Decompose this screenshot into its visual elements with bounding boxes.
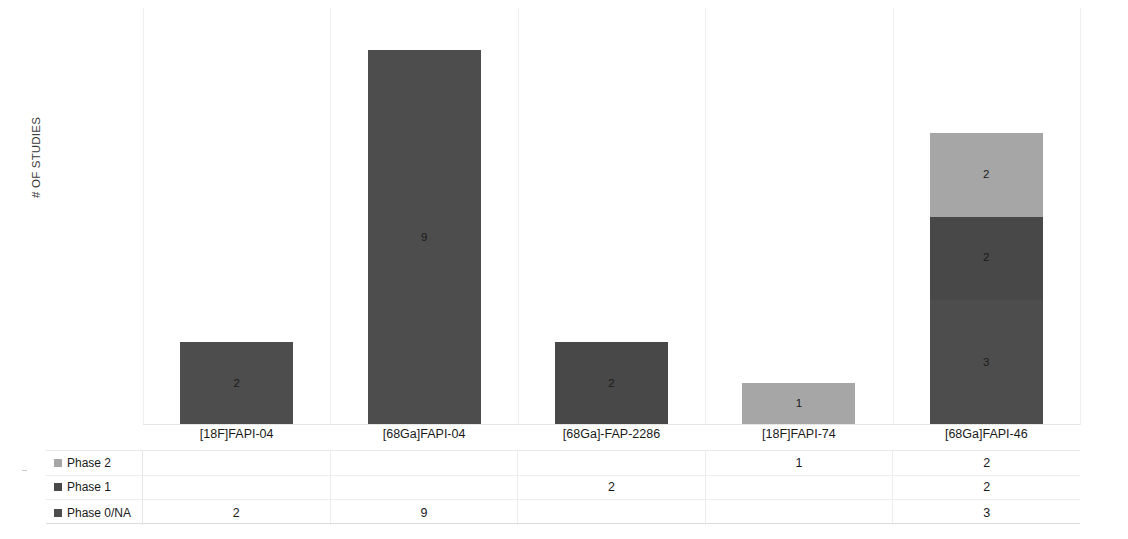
legend-label: Phase 0/NA — [67, 506, 131, 520]
legend-entry[interactable]: Phase 0/NA — [46, 500, 143, 525]
gridline-vertical — [893, 8, 894, 425]
table-row: Phase 212 — [46, 451, 1080, 476]
scan-artifact — [22, 470, 27, 471]
bar-segment[interactable]: 2 — [930, 217, 1043, 300]
table-cell — [518, 500, 706, 525]
table-cell — [143, 476, 331, 500]
gridline-vertical — [330, 8, 331, 425]
table-cell — [331, 476, 519, 500]
legend-swatch-icon — [54, 483, 62, 491]
table-cell: 2 — [893, 476, 1080, 500]
bar-segment[interactable]: 1 — [742, 383, 855, 425]
table-cell: 3 — [893, 500, 1080, 525]
table-cell — [706, 500, 894, 525]
bar-value-label: 2 — [608, 378, 614, 390]
bar-column[interactable]: 1 — [742, 383, 855, 425]
category-label: [18F]FAPI-74 — [705, 427, 892, 441]
gridline-vertical — [705, 8, 706, 425]
bar-column[interactable]: 9 — [368, 50, 481, 425]
legend-entry[interactable]: Phase 1 — [46, 476, 143, 500]
bar-value-label: 9 — [421, 232, 427, 244]
bar-column[interactable]: 322 — [930, 133, 1043, 425]
bar-value-label: 2 — [983, 252, 989, 264]
bar-value-label: 2 — [233, 378, 239, 390]
legend-swatch-icon — [54, 509, 62, 517]
bar-column[interactable]: 2 — [180, 342, 293, 425]
data-table: Phase 212Phase 122Phase 0/NA293 — [46, 450, 1080, 524]
gridline-vertical — [1080, 8, 1081, 425]
legend-entry[interactable]: Phase 2 — [46, 451, 143, 475]
legend-label: Phase 2 — [67, 456, 111, 470]
table-cell: 2 — [143, 500, 331, 525]
category-label: [68Ga]FAPI-04 — [330, 427, 517, 441]
bar-segment[interactable]: 9 — [368, 50, 481, 425]
gridline-vertical — [518, 8, 519, 425]
bar-segment[interactable]: 2 — [180, 342, 293, 425]
table-row: Phase 122 — [46, 476, 1080, 501]
legend-swatch-icon — [54, 459, 62, 467]
bar-value-label: 2 — [983, 169, 989, 181]
bar-segment[interactable]: 3 — [930, 300, 1043, 425]
plot-area: 2921322 — [143, 8, 1080, 425]
stacked-bar-chart: # OF STUDIES 2921322 [18F]FAPI-04[68Ga]F… — [0, 0, 1128, 539]
bar-value-label: 3 — [983, 357, 989, 369]
bar-segment[interactable]: 2 — [555, 342, 668, 425]
table-cell — [331, 451, 519, 475]
bar-segment[interactable]: 2 — [930, 133, 1043, 216]
bar-value-label: 1 — [796, 398, 802, 410]
table-row: Phase 0/NA293 — [46, 500, 1080, 525]
table-cell: 2 — [518, 476, 706, 500]
category-label: [18F]FAPI-04 — [143, 427, 330, 441]
table-cell — [143, 451, 331, 475]
legend-label: Phase 1 — [67, 480, 111, 494]
y-axis-title: # OF STUDIES — [30, 18, 50, 198]
table-cell: 1 — [706, 451, 894, 475]
table-cell: 9 — [331, 500, 519, 525]
category-label: [68Ga]FAPI-46 — [893, 427, 1080, 441]
bar-column[interactable]: 2 — [555, 342, 668, 425]
gridline-vertical — [143, 8, 144, 425]
category-axis-labels: [18F]FAPI-04[68Ga]FAPI-04[68Ga]-FAP-2286… — [143, 425, 1080, 450]
category-label: [68Ga]-FAP-2286 — [518, 427, 705, 441]
table-cell: 2 — [893, 451, 1080, 475]
table-cell — [518, 451, 706, 475]
table-cell — [706, 476, 894, 500]
